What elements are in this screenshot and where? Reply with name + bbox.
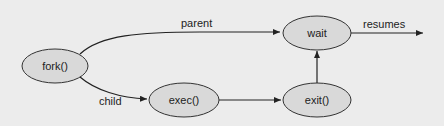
node-label-exec: exec(): [169, 94, 200, 106]
process-diagram: parent child resumes fork() exec() wait …: [0, 0, 444, 126]
edge-parent: [80, 32, 280, 54]
node-label-wait: wait: [306, 27, 327, 39]
node-wait: wait: [283, 16, 351, 50]
edge-label-resumes: resumes: [363, 18, 406, 30]
node-label-fork: fork(): [42, 60, 68, 72]
edge-label-parent: parent: [181, 17, 212, 29]
node-label-exit: exit(): [305, 94, 329, 106]
node-exit: exit(): [283, 83, 351, 117]
node-fork: fork(): [22, 49, 88, 83]
edge-label-child: child: [99, 95, 122, 107]
node-exec: exec(): [149, 83, 219, 117]
